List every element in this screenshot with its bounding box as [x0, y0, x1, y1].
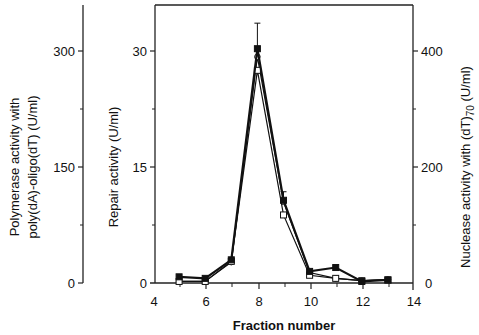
- series-line-nuclease-activity: [179, 57, 388, 281]
- data-point-filled-square: [254, 46, 260, 52]
- left-inner-tick-15: 15: [133, 160, 147, 175]
- data-point-filled-square: [228, 257, 234, 263]
- left-outer-axis: 300 150 0: [53, 5, 83, 291]
- data-point-filled-square: [385, 277, 391, 283]
- right-axis: 400 200 0: [413, 44, 443, 291]
- data-point-open-square: [333, 275, 339, 281]
- left-inner-axis-title: Repair activity (U/ml): [106, 107, 121, 228]
- data-point-filled-square: [333, 265, 339, 271]
- right-tick-0: 0: [425, 276, 432, 291]
- right-tick-400: 400: [421, 44, 443, 59]
- x-tick-14: 14: [407, 294, 421, 309]
- data-point-filled-square: [281, 197, 287, 203]
- series-layer: [176, 23, 391, 284]
- left-inner-tick-0: 0: [140, 276, 147, 291]
- x-tick-10: 10: [304, 294, 318, 309]
- x-axis: 4 6 8 10 12 14: [150, 283, 421, 309]
- left-inner-axis: 30 15 0: [133, 44, 155, 291]
- right-tick-200: 200: [421, 160, 443, 175]
- x-tick-6: 6: [202, 294, 209, 309]
- data-point-filled-square: [359, 278, 365, 284]
- x-tick-4: 4: [150, 294, 157, 309]
- left-outer-tick-0: 0: [68, 276, 75, 291]
- left-outer-tick-150: 150: [53, 160, 75, 175]
- x-tick-8: 8: [255, 294, 262, 309]
- left-outer-axis-title-line1: Polymerase activity with: [7, 98, 22, 237]
- x-axis-title: Fraction number: [233, 318, 336, 333]
- data-point-filled-square: [176, 274, 182, 280]
- data-point-filled-square: [202, 275, 208, 281]
- data-point-open-square: [281, 212, 287, 218]
- series-line-polymerase-activity: [179, 70, 388, 281]
- left-outer-axis-title-line2: poly(dA)-oligo(dT) (U/ml): [25, 95, 40, 238]
- left-inner-tick-30: 30: [133, 44, 147, 59]
- left-outer-tick-300: 300: [53, 44, 75, 59]
- data-point-filled-square: [307, 268, 313, 274]
- series-line-repair-activity: [179, 49, 388, 282]
- chart-canvas: 300 150 0 Polymerase activity with poly(…: [0, 0, 479, 335]
- right-axis-title: Nuclease activity with (dT)70 (U/ml): [458, 66, 476, 268]
- plot-frame: [150, 5, 413, 290]
- x-tick-12: 12: [356, 294, 370, 309]
